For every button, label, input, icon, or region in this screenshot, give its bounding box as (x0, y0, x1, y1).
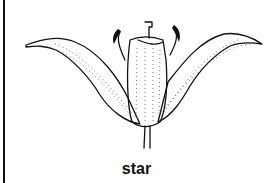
star-flower-illustration (0, 0, 273, 183)
stem (144, 126, 150, 148)
left-stamen (118, 32, 125, 60)
left-petal (26, 38, 140, 124)
pistil (145, 22, 152, 38)
diagram-caption: star (0, 160, 273, 178)
